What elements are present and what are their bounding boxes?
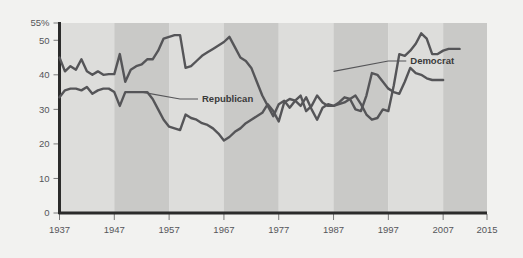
decade-band [334, 23, 389, 213]
x-tick-label: 1957 [159, 224, 180, 235]
decade-band [60, 23, 115, 213]
x-tick-label: 2015 [476, 224, 497, 235]
x-tick-label: 1937 [49, 224, 70, 235]
y-tick-label: 10 [39, 173, 50, 184]
series-label-republican: Republican [202, 93, 253, 104]
y-tick-label: 40 [39, 69, 50, 80]
decade-band [443, 23, 487, 213]
x-tick-label: 1987 [323, 224, 344, 235]
x-tick-label: 2007 [433, 224, 454, 235]
y-tick-label: 30 [39, 104, 50, 115]
x-tick-label: 1977 [268, 224, 289, 235]
x-tick-label: 1947 [104, 224, 125, 235]
x-tick-label: 1997 [378, 224, 399, 235]
chart-container: 0102030405055% 1937194719571967197719871… [0, 0, 523, 258]
decade-band [279, 23, 334, 213]
party-affiliation-line-chart: 0102030405055% 1937194719571967197719871… [0, 0, 523, 258]
x-tick-label: 1967 [213, 224, 234, 235]
series-label-democrat: Democrat [410, 55, 455, 66]
decade-band-group [60, 23, 488, 213]
y-tick-label: 20 [39, 138, 50, 149]
y-tick-label: 50 [39, 35, 50, 46]
decade-band [224, 23, 279, 213]
y-tick-label: 0 [44, 207, 49, 218]
y-tick-label: 55% [30, 17, 50, 28]
decade-band [114, 23, 169, 213]
decade-band [169, 23, 224, 213]
decade-band [388, 23, 443, 213]
